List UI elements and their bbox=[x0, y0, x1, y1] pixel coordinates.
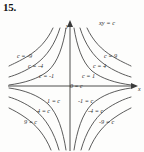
x-axis-label: x bbox=[138, 86, 141, 93]
curve-label-lower-left-c-4: 4 = c bbox=[37, 107, 50, 114]
curve-label-lower-right-c-9: -9 = c bbox=[99, 118, 114, 125]
x-axis-arrowhead bbox=[131, 83, 138, 89]
curve-upper-right-c-9 bbox=[87, 28, 131, 66]
curve-label-upper-right-c-9: c = 9 bbox=[104, 52, 117, 59]
curve-label-lower-right-c-4: -4 = c bbox=[88, 107, 103, 114]
curve-label-lower-right-c-1: -1 = c bbox=[78, 97, 93, 104]
curve-label-upper-right-c-4: c = 4 bbox=[93, 62, 106, 69]
y-axis-label: y bbox=[66, 23, 69, 30]
curve-label-lower-left-c-1: 1 = c bbox=[47, 97, 60, 104]
family-equation-label: xy = c bbox=[99, 19, 115, 26]
figure-container: 15. bbox=[0, 0, 144, 152]
curve-lower-left-c-9 bbox=[9, 108, 51, 150]
curve-lower-right-c-9 bbox=[89, 108, 131, 150]
level-curve-plot bbox=[0, 0, 144, 152]
curve-upper-left-c-9 bbox=[9, 28, 53, 66]
curve-label-upper-left-c-4: c = -4 bbox=[28, 62, 43, 69]
origin-level-label: 0 = c bbox=[70, 83, 83, 90]
plot-area bbox=[0, 0, 144, 152]
curve-label-upper-right-c-1: c = 1 bbox=[82, 72, 95, 79]
curve-label-lower-left-c-9: 9 = c bbox=[24, 118, 37, 125]
curve-label-upper-left-c-1: c = -1 bbox=[39, 72, 54, 79]
curve-label-upper-left-c-9: c = -9 bbox=[17, 52, 32, 59]
